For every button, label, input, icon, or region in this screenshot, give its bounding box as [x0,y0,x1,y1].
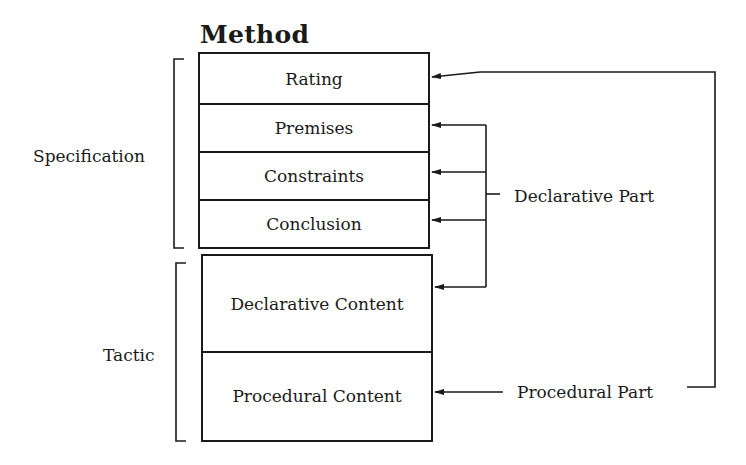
connector-lines [0,0,746,465]
specification-bracket [174,59,184,248]
tactic-bracket [176,263,186,441]
procedural-loop [480,72,715,387]
